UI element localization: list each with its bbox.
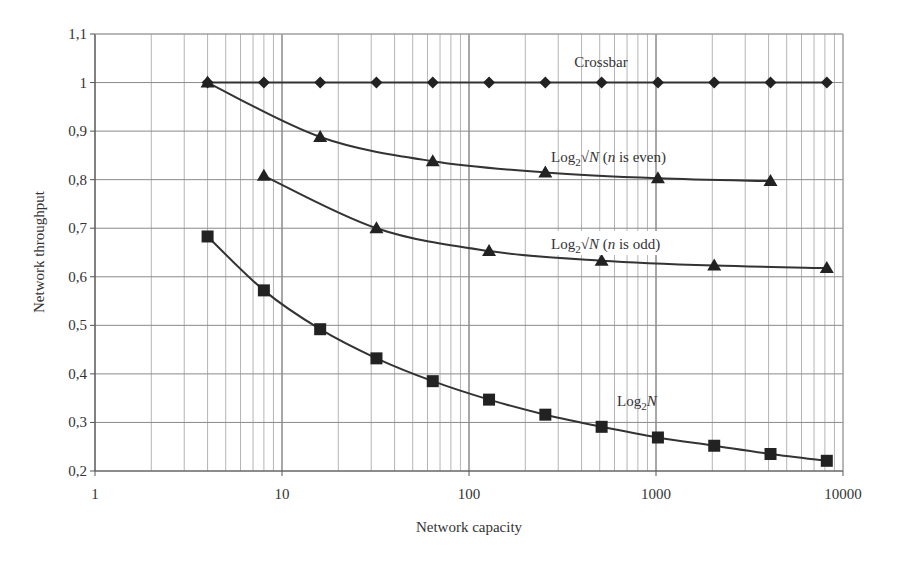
triangle-marker [257, 169, 271, 181]
grid [95, 34, 843, 471]
y-tick-label: 1 [80, 75, 88, 91]
y-tick-label: 1,1 [68, 26, 87, 42]
diamond-marker [539, 77, 551, 89]
label-log2n: Log2N [617, 393, 658, 412]
square-marker [708, 440, 720, 452]
diamond-marker [483, 77, 495, 89]
square-marker [483, 394, 495, 406]
y-tick-label: 0,4 [68, 366, 87, 382]
x-axis-label: Network capacity [416, 519, 523, 535]
y-tick-label: 0,5 [68, 317, 87, 333]
y-tick-label: 0,6 [68, 269, 87, 285]
label-log2-sqrt-n-even: Log2√N (n is even) [551, 149, 666, 168]
series-line [208, 236, 827, 460]
series-lines [201, 76, 834, 467]
x-tick-label: 1 [91, 486, 99, 502]
square-marker [821, 455, 833, 467]
y-tick-label: 0,7 [68, 220, 87, 236]
label-crossbar: Crossbar [574, 54, 627, 70]
y-tick-label: 0,3 [68, 414, 87, 430]
x-tick-label: 1000 [641, 486, 671, 502]
axes: 0,20,30,40,50,60,70,80,911,1110100100010… [68, 26, 862, 502]
x-tick-label: 10 [275, 486, 290, 502]
y-axis-label: Network throughput [31, 190, 47, 313]
square-marker [539, 409, 551, 421]
y-tick-label: 0,8 [68, 172, 87, 188]
diamond-marker [652, 77, 664, 89]
square-marker [258, 284, 270, 296]
network-throughput-chart: 0,20,30,40,50,60,70,80,911,1110100100010… [0, 0, 898, 568]
x-tick-label: 100 [458, 486, 481, 502]
square-marker [596, 421, 608, 433]
diamond-marker [708, 77, 720, 89]
diamond-marker [427, 77, 439, 89]
y-tick-label: 0,9 [68, 123, 87, 139]
diamond-marker [596, 77, 608, 89]
square-marker [370, 352, 382, 364]
diamond-marker [765, 77, 777, 89]
square-marker [427, 375, 439, 387]
square-marker [314, 323, 326, 335]
x-tick-label: 10000 [824, 486, 862, 502]
series-line [208, 83, 771, 182]
diamond-marker [821, 77, 833, 89]
square-marker [765, 448, 777, 460]
square-marker [202, 230, 214, 242]
diamond-marker [370, 77, 382, 89]
square-marker [652, 431, 664, 443]
y-tick-label: 0,2 [68, 463, 87, 479]
diamond-marker [258, 77, 270, 89]
diamond-marker [314, 77, 326, 89]
